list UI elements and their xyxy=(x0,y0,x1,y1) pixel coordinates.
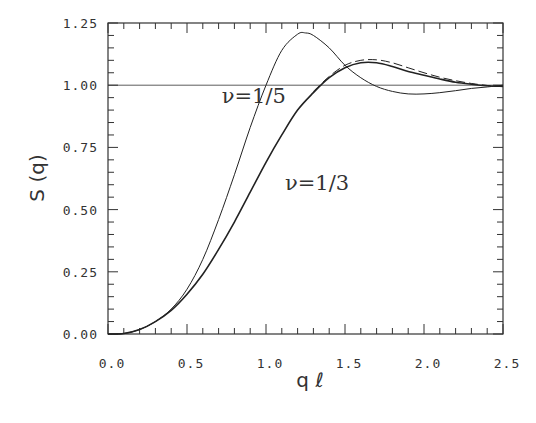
annotation-0: ν=1/5 xyxy=(222,84,286,108)
y-tick-label: 1.25 xyxy=(63,16,98,31)
structure-factor-chart: 0.00.51.01.52.02.5 0.000.250.500.751.001… xyxy=(0,0,536,423)
curve-annotations: ν=1/5ν=1/3 xyxy=(222,84,349,195)
x-tick-label: 0.0 xyxy=(99,356,125,371)
y-tick-label: 0.25 xyxy=(63,265,98,280)
y-axis-title: S (q) xyxy=(25,154,49,201)
x-tick-label: 2.0 xyxy=(415,356,441,371)
x-tick-label: 1.0 xyxy=(257,356,283,371)
x-tick-label: 1.5 xyxy=(336,356,362,371)
curve-2 xyxy=(313,60,503,92)
x-tick-label: 0.5 xyxy=(178,356,204,371)
y-tick-label: 0.75 xyxy=(63,140,98,155)
annotation-1: ν=1/3 xyxy=(285,171,349,195)
y-tick-labels: 0.000.250.500.751.001.25 xyxy=(63,16,98,342)
y-tick-label: 0.00 xyxy=(63,327,98,342)
x-axis-title: q ℓ xyxy=(296,368,323,392)
curve-1 xyxy=(108,62,503,334)
y-tick-label: 1.00 xyxy=(63,78,98,93)
y-tick-label: 0.50 xyxy=(63,203,98,218)
x-tick-label: 2.5 xyxy=(494,356,520,371)
